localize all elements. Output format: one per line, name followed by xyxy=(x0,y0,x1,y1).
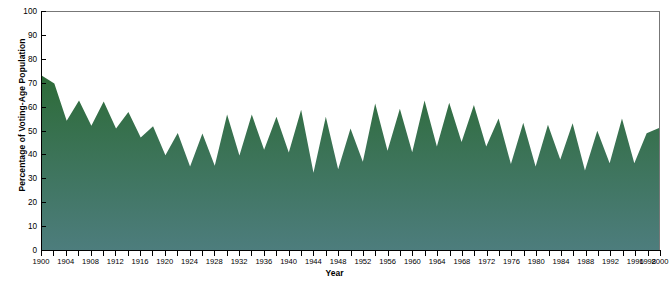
x-tick-label: 1908 xyxy=(82,257,99,266)
x-tick-mark xyxy=(140,250,141,256)
x-tick-label: 1984 xyxy=(553,257,570,266)
x-tick-mark xyxy=(388,250,389,256)
x-tick-mark xyxy=(202,250,203,256)
x-tick-label: 1956 xyxy=(379,257,396,266)
x-tick-mark xyxy=(227,250,228,256)
x-tick-label: 1960 xyxy=(404,257,421,266)
x-tick-mark xyxy=(437,250,438,256)
y-tick-label: 30 xyxy=(0,174,41,183)
x-tick-mark xyxy=(177,250,178,256)
x-tick-mark xyxy=(41,250,42,256)
x-tick-mark xyxy=(610,250,611,256)
x-tick-mark xyxy=(400,250,401,256)
x-tick-mark xyxy=(536,250,537,256)
x-tick-label: 1968 xyxy=(453,257,470,266)
x-tick-mark xyxy=(375,250,376,256)
y-tick-label: 70 xyxy=(0,78,41,87)
x-tick-mark xyxy=(648,250,649,256)
x-tick-mark xyxy=(103,250,104,256)
x-tick-label: 1992 xyxy=(602,257,619,266)
x-tick-mark xyxy=(549,250,550,256)
x-tick-label: 1980 xyxy=(528,257,545,266)
y-tick-label: 20 xyxy=(0,198,41,207)
y-tick-label: 60 xyxy=(0,102,41,111)
x-tick-label: 1988 xyxy=(577,257,594,266)
x-tick-label: 1976 xyxy=(503,257,520,266)
x-tick-mark xyxy=(635,250,636,256)
x-tick-mark xyxy=(623,250,624,256)
x-tick-label: 1948 xyxy=(330,257,347,266)
x-tick-label: 1944 xyxy=(305,257,322,266)
x-tick-label: 1928 xyxy=(206,257,223,266)
x-tick-label: 1932 xyxy=(231,257,248,266)
x-tick-mark xyxy=(524,250,525,256)
y-tick-label: 40 xyxy=(0,150,41,159)
x-tick-label: 1904 xyxy=(57,257,74,266)
x-tick-mark xyxy=(511,250,512,256)
x-tick-mark xyxy=(165,250,166,256)
x-tick-label: 2000 xyxy=(652,257,669,266)
x-tick-mark xyxy=(450,250,451,256)
y-tick-label: 10 xyxy=(0,222,41,231)
x-tick-mark xyxy=(598,250,599,256)
x-tick-mark xyxy=(276,250,277,256)
y-tick-mark xyxy=(41,35,46,36)
x-tick-label: 1920 xyxy=(156,257,173,266)
x-tick-label: 1952 xyxy=(354,257,371,266)
x-tick-mark xyxy=(412,250,413,256)
x-tick-label: 1964 xyxy=(429,257,446,266)
x-tick-label: 1900 xyxy=(33,257,50,266)
x-tick-mark xyxy=(115,250,116,256)
x-tick-mark xyxy=(190,250,191,256)
x-tick-mark xyxy=(251,250,252,256)
y-tick-mark xyxy=(41,107,46,108)
x-tick-mark xyxy=(301,250,302,256)
x-tick-mark xyxy=(425,250,426,256)
x-tick-mark xyxy=(91,250,92,256)
x-tick-mark xyxy=(214,250,215,256)
x-tick-mark xyxy=(338,250,339,256)
x-tick-mark xyxy=(78,250,79,256)
x-tick-mark xyxy=(53,250,54,256)
y-tick-label: 50 xyxy=(0,126,41,135)
x-tick-mark xyxy=(239,250,240,256)
y-tick-mark xyxy=(41,202,46,203)
x-tick-label: 1972 xyxy=(478,257,495,266)
y-tick-label: 80 xyxy=(0,54,41,63)
x-tick-mark xyxy=(573,250,574,256)
x-tick-mark xyxy=(499,250,500,256)
y-tick-mark xyxy=(41,83,46,84)
y-tick-mark xyxy=(41,178,46,179)
x-tick-mark xyxy=(586,250,587,256)
x-tick-mark xyxy=(660,250,661,256)
x-tick-mark xyxy=(487,250,488,256)
y-tick-mark xyxy=(41,59,46,60)
plot-area xyxy=(41,11,660,250)
y-tick-mark xyxy=(41,131,46,132)
y-tick-mark xyxy=(41,226,46,227)
x-tick-mark xyxy=(351,250,352,256)
area-series xyxy=(42,12,659,250)
x-tick-label: 1912 xyxy=(107,257,124,266)
y-tick-mark xyxy=(41,11,46,12)
x-tick-mark xyxy=(289,250,290,256)
x-tick-mark xyxy=(474,250,475,256)
x-tick-label: 1916 xyxy=(132,257,149,266)
x-tick-mark xyxy=(561,250,562,256)
x-tick-mark xyxy=(128,250,129,256)
x-axis-title: Year xyxy=(0,268,669,278)
x-tick-mark xyxy=(462,250,463,256)
x-tick-mark xyxy=(326,250,327,256)
x-tick-label: 1924 xyxy=(181,257,198,266)
x-tick-mark xyxy=(264,250,265,256)
x-tick-label: 1936 xyxy=(255,257,272,266)
x-tick-mark xyxy=(313,250,314,256)
x-tick-mark xyxy=(363,250,364,256)
y-tick-label: 100 xyxy=(0,7,41,16)
x-tick-mark xyxy=(66,250,67,256)
x-tick-mark xyxy=(152,250,153,256)
y-tick-mark xyxy=(41,154,46,155)
x-tick-label: 1940 xyxy=(280,257,297,266)
chart-container: Percentage of Voting-Age Population 0102… xyxy=(0,0,669,283)
y-tick-label: 0 xyxy=(0,246,41,255)
